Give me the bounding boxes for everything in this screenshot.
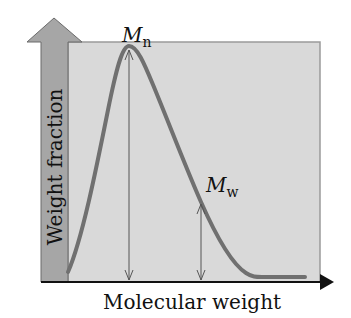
plot-area — [68, 42, 320, 282]
molecular-weight-distribution-diagram: Weight fraction Mn Mw Molecular weight — [0, 0, 351, 318]
x-axis-arrowhead — [320, 274, 334, 290]
mn-label: Mn — [121, 23, 152, 50]
x-axis-label: Molecular weight — [103, 290, 281, 314]
y-axis-label: Weight fraction — [43, 89, 67, 246]
